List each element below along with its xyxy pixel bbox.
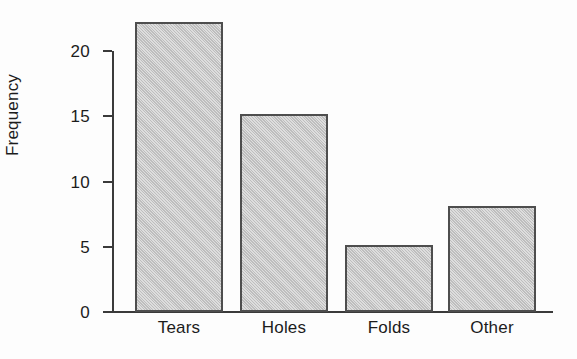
y-axis-tick-mark [103, 50, 112, 52]
x-axis-tick-label: Tears [135, 318, 223, 338]
y-axis-line [112, 51, 114, 313]
y-axis-tick-mark [103, 311, 112, 313]
y-axis-tick-mark [103, 246, 112, 248]
bar-chart: Frequency 05101520 TearsHolesFoldsOther [0, 0, 577, 359]
y-axis-tick-label: 10 [44, 173, 90, 190]
x-axis-tick-label: Folds [345, 318, 433, 338]
y-axis-tick-mark [103, 115, 112, 117]
bar [240, 114, 328, 312]
y-axis-tick-mark [103, 181, 112, 183]
y-axis-tick-label: 20 [44, 43, 90, 60]
y-axis-tick-label: 0 [44, 304, 90, 321]
bar [345, 245, 433, 312]
y-axis-title-text: Frequency [3, 73, 23, 155]
y-axis-tick-label: 15 [44, 108, 90, 125]
x-axis-tick-label: Holes [240, 318, 328, 338]
y-axis-title: Frequency [0, 0, 26, 359]
y-axis-tick-label: 5 [44, 238, 90, 255]
x-axis-tick-label: Other [448, 318, 536, 338]
bar [135, 22, 223, 312]
bar [448, 206, 536, 312]
